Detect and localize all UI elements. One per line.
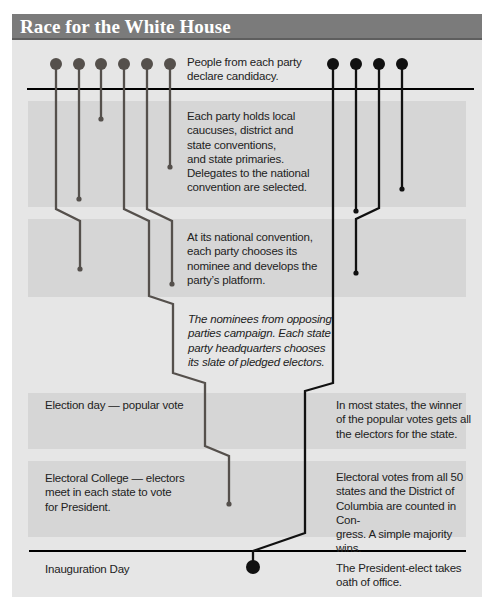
stage-electoral-college-label: Electoral College — electors meet in eac… xyxy=(45,471,195,514)
stage-electoral-college-text: Electoral votes from all 50 states and t… xyxy=(336,470,476,556)
stage-local-text: Each party holds local caucuses, distric… xyxy=(187,109,337,195)
stage-election-day-text: In most states, the winner of the popula… xyxy=(336,398,476,441)
left-party-candidate-dots xyxy=(50,58,176,70)
stage-inauguration-text: The President-elect takes oath of office… xyxy=(336,561,476,590)
left-candidate-dot xyxy=(164,58,176,70)
left-candidate-dot xyxy=(118,58,130,70)
stage-campaign-text: The nominees from opposing parties campa… xyxy=(188,312,338,369)
left-candidate-dot xyxy=(50,58,62,70)
stage-declare-text: People from each party declare candidacy… xyxy=(187,55,327,84)
left-candidate-dot xyxy=(95,58,107,70)
right-candidate-dot xyxy=(396,58,408,70)
stage-election-day-label: Election day — popular vote xyxy=(45,398,195,412)
stage-national-text: At its national convention, each party c… xyxy=(187,230,337,287)
left-candidate-dot xyxy=(73,58,85,70)
right-candidate-dot xyxy=(350,58,362,70)
president-elect-dot xyxy=(246,560,260,574)
stage-inauguration-label: Inauguration Day xyxy=(45,562,195,576)
right-candidate-dot xyxy=(373,58,385,70)
right-candidate-dot xyxy=(327,58,339,70)
right-party-candidate-dots xyxy=(327,58,408,70)
left-candidate-dot xyxy=(141,58,153,70)
